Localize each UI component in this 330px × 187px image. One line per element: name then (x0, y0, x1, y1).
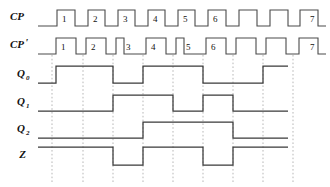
cp-pulse-number-7: 7 (310, 14, 315, 24)
waveform-canvas: CP CP ' Q 0 Q 1 Q 2 Z 1 2 3 4 5 6 7 (0, 0, 330, 187)
cp-prime-pulse-number-7: 7 (310, 42, 315, 52)
signal-label-cp: CP (10, 10, 24, 22)
signal-label-cp-prime-base: CP (10, 38, 24, 50)
cp-prime-pulse-number-2: 2 (91, 42, 96, 52)
signal-label-q1-base: Q (17, 95, 25, 107)
cp-pulse-number-4: 4 (153, 14, 158, 24)
signal-label-q0: Q 0 (17, 67, 30, 82)
cp-prime-pulse-number-4: 4 (151, 42, 156, 52)
waveform-cp (38, 10, 326, 26)
cp-pulse-number-2: 2 (93, 14, 98, 24)
waveform-z (38, 147, 288, 165)
cp-prime-pulse-number-3: 3 (126, 42, 131, 52)
signal-label-q1: Q 1 (17, 95, 29, 110)
cp-prime-pulse-numbers: 1 2 3 4 5 6 7 (61, 42, 315, 52)
signal-label-q0-subscript: 0 (26, 74, 30, 82)
gridlines (52, 55, 293, 184)
cp-pulse-number-5: 5 (183, 14, 188, 24)
cp-pulse-number-1: 1 (62, 14, 67, 24)
signal-label-q1-subscript: 1 (26, 102, 30, 110)
signal-label-cp-prime-mark: ' (25, 36, 28, 48)
signal-label-z: Z (18, 148, 26, 160)
signal-label-q0-base: Q (17, 67, 25, 79)
cp-pulse-number-3: 3 (123, 14, 128, 24)
signal-label-q2-base: Q (17, 122, 25, 134)
cp-prime-pulse-number-1: 1 (61, 42, 66, 52)
waveform-q2 (38, 122, 288, 138)
waveform-q0 (38, 66, 288, 83)
cp-pulse-number-6: 6 (213, 14, 218, 24)
signal-label-q2: Q 2 (17, 122, 30, 137)
cp-pulse-numbers: 1 2 3 4 5 6 7 (62, 14, 315, 24)
signal-label-cp-prime: CP ' (10, 36, 28, 50)
waveform-cp-prime (38, 38, 326, 54)
waveform-q1 (38, 95, 288, 111)
cp-prime-pulse-number-5: 5 (186, 42, 191, 52)
cp-prime-pulse-number-6: 6 (211, 42, 216, 52)
signal-label-q2-subscript: 2 (25, 129, 30, 137)
timing-diagram-figure: CP CP ' Q 0 Q 1 Q 2 Z 1 2 3 4 5 6 7 (0, 0, 330, 187)
